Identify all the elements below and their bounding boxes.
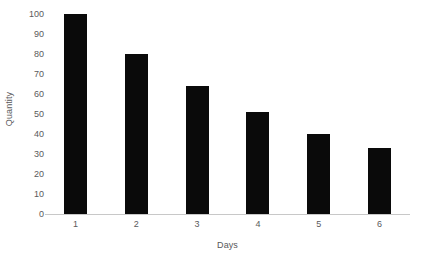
bar: [368, 148, 391, 214]
bar: [186, 86, 209, 214]
y-axis-tick-label: 70: [18, 70, 44, 79]
y-axis-tick-label: 100: [18, 10, 44, 19]
x-axis-title: Days: [45, 240, 410, 250]
bar: [64, 14, 87, 214]
y-axis-tick-label: 30: [18, 150, 44, 159]
bar: [125, 54, 148, 214]
y-axis-tick-label: 10: [18, 190, 44, 199]
y-axis-tick-labels: 0102030405060708090100: [18, 0, 44, 261]
y-axis-tick-label: 40: [18, 130, 44, 139]
x-axis-tick-labels: 123456: [45, 219, 410, 233]
y-axis-tick-label: 80: [18, 50, 44, 59]
x-axis-tick-label: 1: [55, 219, 95, 230]
y-axis-tick-label: 20: [18, 170, 44, 179]
bar: [307, 134, 330, 214]
x-axis-tick-label: 3: [177, 219, 217, 230]
bar: [246, 112, 269, 214]
y-axis-title: Quantity: [4, 74, 14, 144]
plot-area: [45, 14, 410, 214]
x-axis-tick-label: 2: [116, 219, 156, 230]
x-axis-tick-label: 5: [299, 219, 339, 230]
bar-chart: Quantity 0102030405060708090100 123456 D…: [0, 0, 421, 261]
y-axis-tick-label: 60: [18, 90, 44, 99]
x-axis-tick-label: 4: [238, 219, 278, 230]
y-axis-tick-label: 0: [18, 210, 44, 219]
y-axis-tick-label: 90: [18, 30, 44, 39]
y-axis-tick-label: 50: [18, 110, 44, 119]
x-axis-tick-label: 6: [360, 219, 400, 230]
x-axis-line: [45, 214, 410, 215]
